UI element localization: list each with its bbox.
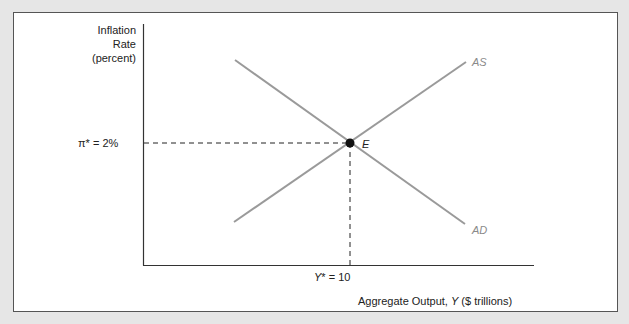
y-star-tick-label: Y* = 10 — [314, 270, 350, 284]
ad-curve-label: AD — [472, 223, 487, 237]
y-star-value: * = 10 — [321, 271, 350, 283]
equilibrium-point — [346, 139, 355, 148]
equilibrium-label: E — [362, 137, 369, 151]
y-axis-label-line-1: Inflation — [92, 23, 136, 37]
pi-star-tick-label: π* = 2% — [78, 136, 118, 150]
y-axis-label-line-3: (percent) — [92, 51, 136, 65]
y-axis-label-line-2: Rate — [92, 37, 136, 51]
x-axis-label-post: ($ trillions) — [458, 295, 512, 307]
x-axis-label-pre: Aggregate Output, — [358, 295, 451, 307]
y-axis-label: Inflation Rate (percent) — [92, 23, 136, 65]
x-axis-label: Aggregate Output, Y ($ trillions) — [358, 294, 512, 308]
as-curve-label: AS — [472, 55, 487, 69]
